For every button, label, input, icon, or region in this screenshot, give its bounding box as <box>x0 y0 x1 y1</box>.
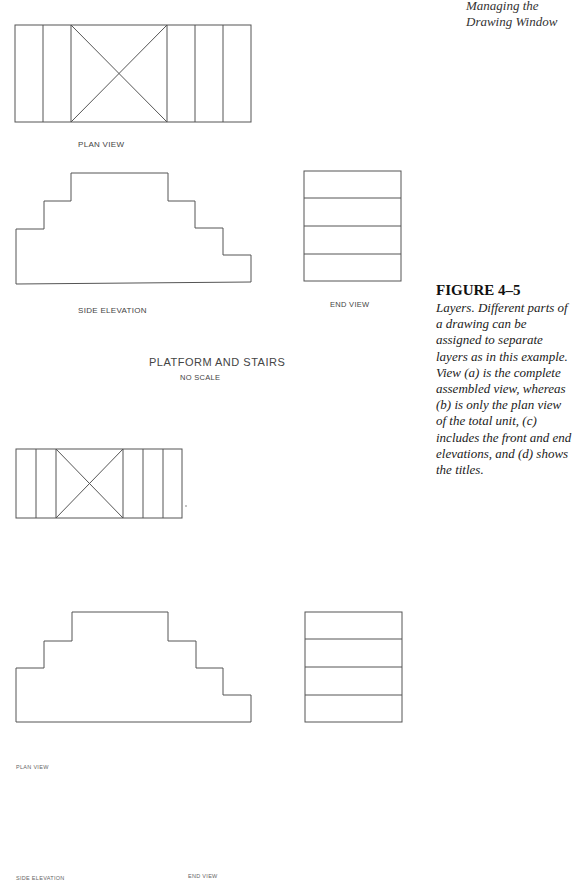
end-view-c <box>305 612 402 722</box>
end-view-label: END VIEW <box>330 300 370 309</box>
plan-view-a <box>15 25 251 122</box>
end-view-a <box>304 171 401 281</box>
side-elevation-a <box>16 173 251 284</box>
end-view-label-titles: END VIEW <box>188 873 218 879</box>
figure-title: FIGURE 4–5 <box>436 282 521 299</box>
side-elevation-label-titles: SIDE ELEVATION <box>16 875 65 881</box>
plan-view-label-titles: PLAN VIEW <box>16 764 49 770</box>
side-elevation-label: SIDE ELEVATION <box>78 306 147 315</box>
figure-caption: Layers. Different parts of a drawing can… <box>436 300 574 478</box>
drawing-subtitle: NO SCALE <box>180 373 220 382</box>
drawing-title: PLATFORM AND STAIRS <box>149 356 285 368</box>
plan-view-label: PLAN VIEW <box>78 140 124 149</box>
side-elevation-c <box>16 612 251 722</box>
plan-view-b <box>16 449 182 518</box>
